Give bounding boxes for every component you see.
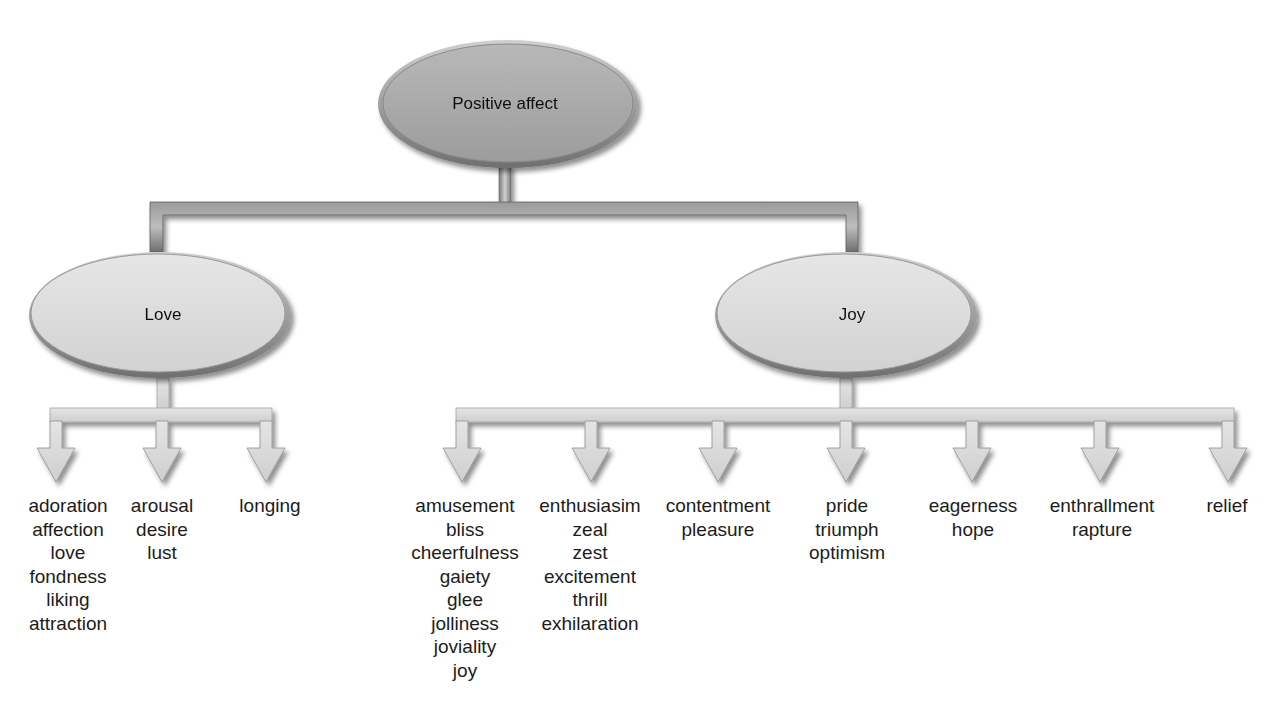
joy-down-arrow-icon <box>1081 421 1119 482</box>
emotion-term: zest <box>539 541 640 565</box>
emotion-term: longing <box>239 494 300 518</box>
joy-connector-stem <box>840 378 852 410</box>
joy-term-group: enthusiasimzealzestexcitementthrillexhil… <box>539 494 640 635</box>
love-term-group: adorationaffectionlovefondnesslikingattr… <box>28 494 107 635</box>
emotion-term: zeal <box>539 518 640 542</box>
emotion-term: liking <box>28 588 107 612</box>
joy-down-arrow-icon <box>572 421 610 482</box>
emotion-term: pride <box>809 494 885 518</box>
joy-term-group: amusementblisscheerfulnessgaietygleejoll… <box>411 494 519 682</box>
emotion-term: love <box>28 541 107 565</box>
emotion-term: enthrallment <box>1050 494 1155 518</box>
emotion-term: excitement <box>539 565 640 589</box>
joy-down-arrow-icon <box>1209 421 1247 482</box>
love-children-arrows <box>37 378 285 482</box>
emotion-term: cheerfulness <box>411 541 519 565</box>
emotion-term: enthusiasim <box>539 494 640 518</box>
joy-term-group: eagernesshope <box>929 494 1018 541</box>
emotion-term: relief <box>1206 494 1247 518</box>
emotion-term: lust <box>131 541 193 565</box>
love-down-arrow-icon <box>37 421 75 482</box>
branch-node-love: Love <box>29 252 291 378</box>
emotion-term: bliss <box>411 518 519 542</box>
branch-node-joy: Joy <box>715 252 977 378</box>
branch-node-joy-label: Joy <box>839 305 866 324</box>
joy-term-group: relief <box>1206 494 1247 518</box>
love-connector-stem <box>157 378 169 410</box>
love-down-arrow-icon <box>143 421 181 482</box>
emotion-term: joviality <box>411 635 519 659</box>
emotion-term: hope <box>929 518 1018 542</box>
emotion-term: triumph <box>809 518 885 542</box>
love-term-group: arousaldesirelust <box>131 494 193 565</box>
joy-down-arrow-icon <box>443 421 481 482</box>
emotion-term: eagerness <box>929 494 1018 518</box>
branch-node-love-label: Love <box>145 305 182 324</box>
love-connector-bar <box>50 408 272 422</box>
root-connector <box>150 165 858 252</box>
emotion-term: arousal <box>131 494 193 518</box>
emotion-term: pleasure <box>666 518 771 542</box>
emotion-term: gaiety <box>411 565 519 589</box>
joy-down-arrow-icon <box>699 421 737 482</box>
root-node-label: Positive affect <box>452 94 558 113</box>
joy-children-arrows <box>443 378 1247 482</box>
emotion-term: rapture <box>1050 518 1155 542</box>
joy-term-group: contentmentpleasure <box>666 494 771 541</box>
emotion-term: fondness <box>28 565 107 589</box>
emotion-term: optimism <box>809 541 885 565</box>
joy-term-group: pridetriumphoptimism <box>809 494 885 565</box>
joy-term-group: enthrallmentrapture <box>1050 494 1155 541</box>
emotion-term: attraction <box>28 612 107 636</box>
joy-down-arrow-icon <box>827 421 865 482</box>
emotion-term: desire <box>131 518 193 542</box>
emotion-term: contentment <box>666 494 771 518</box>
emotion-term: glee <box>411 588 519 612</box>
emotion-term: jolliness <box>411 612 519 636</box>
emotion-term: thrill <box>539 588 640 612</box>
love-term-group: longing <box>239 494 300 518</box>
emotion-term: adoration <box>28 494 107 518</box>
love-down-arrow-icon <box>247 421 285 482</box>
emotion-term: exhilaration <box>539 612 640 636</box>
emotion-term: amusement <box>411 494 519 518</box>
root-node: Positive affect <box>378 40 638 168</box>
emotion-term: affection <box>28 518 107 542</box>
joy-connector-bar <box>456 408 1234 422</box>
joy-down-arrow-icon <box>953 421 991 482</box>
emotion-term: joy <box>411 659 519 683</box>
